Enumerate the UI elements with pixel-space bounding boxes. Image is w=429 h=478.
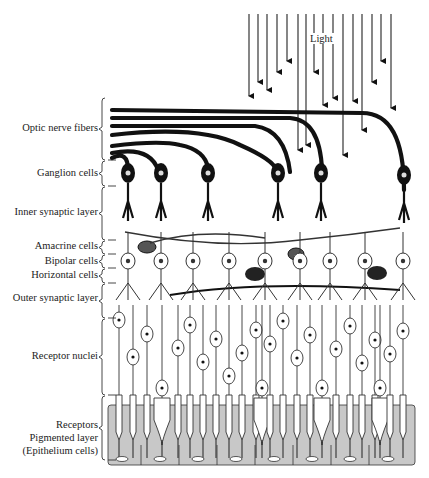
label-ganglion-cells: Ganglion cells [37, 167, 98, 179]
label-epithelium-cells: (Epithelium cells) [22, 445, 98, 457]
label-optic-nerve-fibers: Optic nerve fibers [22, 122, 98, 134]
label-outer-synaptic-layer: Outer synaptic layer [13, 292, 98, 304]
label-receptors: Receptors [56, 419, 98, 431]
ganglion-cells [121, 163, 411, 223]
label-inner-synaptic-layer: Inner synaptic layer [15, 206, 98, 218]
label-receptor-nuclei: Receptor nuclei [32, 350, 98, 362]
label-bipolar-cells: Bipolar cells [45, 255, 98, 267]
label-pigmented-layer: Pigmented layer [29, 432, 98, 444]
label-amacrine-cells: Amacrine cells [35, 240, 98, 252]
retina-diagram [0, 0, 429, 478]
bipolar-cells [116, 232, 415, 300]
light-label: Light [309, 33, 334, 44]
label-horizontal-cells: Horizontal cells [31, 269, 98, 281]
